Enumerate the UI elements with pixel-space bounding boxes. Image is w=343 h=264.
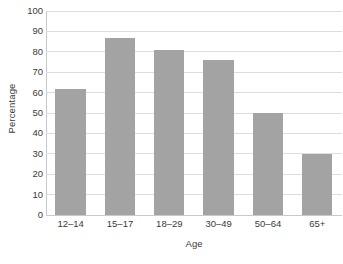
x-tick-label: 30–49 xyxy=(205,219,231,229)
x-axis-title: Age xyxy=(46,238,342,249)
bar-18-29 xyxy=(154,50,184,215)
y-tick-label: 100 xyxy=(27,6,43,16)
x-tick-label: 12–14 xyxy=(57,219,83,229)
x-tick-label: 15–17 xyxy=(107,219,133,229)
x-axis-tick-labels: 12–1415–1718–2930–4950–6465+ xyxy=(46,219,342,235)
bars-layer xyxy=(46,11,342,215)
x-tick-label: 18–29 xyxy=(156,219,182,229)
x-tick-label: 65+ xyxy=(309,219,325,229)
bar-15-17 xyxy=(105,38,135,215)
bar-chart: Percentage 0102030405060708090100 12–141… xyxy=(0,0,343,264)
bar-12-14 xyxy=(55,89,85,215)
bar-30-49 xyxy=(203,60,233,215)
y-tick-label: 80 xyxy=(32,47,43,57)
y-tick-label: 10 xyxy=(32,190,43,200)
y-tick-label: 0 xyxy=(38,210,43,220)
y-tick-label: 60 xyxy=(32,88,43,98)
y-tick-label: 20 xyxy=(32,169,43,179)
y-axis-title: Percentage xyxy=(0,0,22,216)
y-tick-label: 40 xyxy=(32,129,43,139)
bar-65+ xyxy=(302,154,332,215)
x-tick-label: 50–64 xyxy=(255,219,281,229)
y-axis-tick-labels: 0102030405060708090100 xyxy=(22,0,46,216)
y-axis-title-label: Percentage xyxy=(6,83,17,133)
y-tick-label: 70 xyxy=(32,67,43,77)
y-tick-label: 90 xyxy=(32,27,43,37)
y-tick-label: 30 xyxy=(32,149,43,159)
bar-50-64 xyxy=(253,113,283,215)
plot-area xyxy=(46,11,342,215)
y-tick-label: 50 xyxy=(32,108,43,118)
